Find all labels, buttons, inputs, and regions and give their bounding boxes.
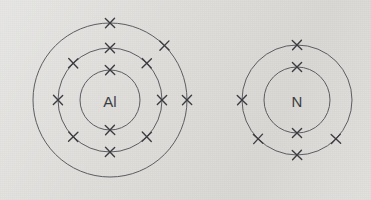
nitrogen-atom-outer-shell-electron-5 bbox=[331, 134, 341, 144]
nitrogen-atom-symbol-label: N bbox=[292, 93, 303, 110]
aluminium-atom-outer-shell-electron-2 bbox=[160, 41, 169, 50]
aluminium-atom-middle-shell-electron-4 bbox=[142, 132, 151, 141]
aluminium-atom-symbol-label: Al bbox=[103, 93, 116, 110]
nitrogen-atom: N bbox=[237, 40, 352, 160]
aluminium-atom-middle-shell-electron-2 bbox=[142, 59, 151, 68]
nitrogen-atom-outer-shell-electron-3 bbox=[253, 134, 263, 144]
bohr-diagram-canvas: AlN bbox=[0, 0, 371, 200]
atoms-svg: AlN bbox=[0, 0, 371, 200]
aluminium-atom: Al bbox=[33, 18, 192, 177]
aluminium-atom-middle-shell-electron-6 bbox=[69, 132, 78, 141]
aluminium-atom-middle-shell-electron-8 bbox=[69, 59, 78, 68]
